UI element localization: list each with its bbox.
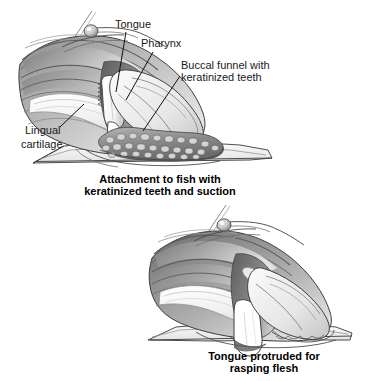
lamprey-anatomy-figure: Tongue Pharynx Buccal funnel with kerati… bbox=[0, 0, 376, 381]
eye-bulb-2 bbox=[217, 219, 231, 231]
caption-protruded-line2: rasping flesh bbox=[230, 362, 299, 374]
caption-protruded-line1: Tongue protruded for bbox=[208, 350, 320, 362]
panel-attachment-illustration: Tongue Pharynx Buccal funnel with kerati… bbox=[19, 11, 272, 197]
label-pharynx: Pharynx bbox=[141, 37, 182, 49]
label-lingual-cartilage-line2: cartilage bbox=[21, 138, 63, 150]
eye-bulb bbox=[84, 25, 98, 37]
label-lingual-cartilage-line1: Lingual bbox=[25, 124, 60, 136]
panel-protruded-illustration: Tongue protruded for rasping flesh bbox=[148, 205, 352, 374]
label-tongue: Tongue bbox=[115, 18, 151, 30]
label-buccal-funnel-line1: Buccal funnel with bbox=[181, 59, 270, 71]
caption-attachment-line1: Attachment to fish with bbox=[99, 173, 221, 185]
caption-attachment-line2: keratinized teeth and suction bbox=[84, 185, 236, 197]
keratinized-teeth-field bbox=[99, 127, 224, 161]
label-buccal-funnel-line2: keratinized teeth bbox=[181, 71, 262, 83]
